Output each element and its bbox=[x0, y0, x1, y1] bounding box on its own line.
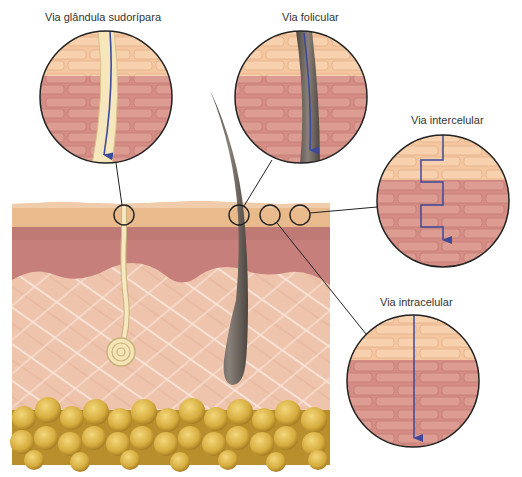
sweat-gland-magnifier bbox=[40, 31, 172, 166]
skin-penetration-diagram bbox=[0, 0, 522, 477]
follicular-magnifier bbox=[235, 31, 367, 166]
label-intercellular-route: Via intercelular bbox=[411, 114, 484, 126]
intracellular-magnifier bbox=[347, 312, 479, 450]
fat-layer bbox=[10, 397, 330, 472]
intercellular-magnifier bbox=[377, 135, 509, 270]
label-intracellular-route: Via intracelular bbox=[380, 296, 453, 308]
label-follicular-route: Via folicular bbox=[282, 11, 339, 23]
label-sweat-gland-route: Via glândula sudorípara bbox=[45, 11, 161, 23]
